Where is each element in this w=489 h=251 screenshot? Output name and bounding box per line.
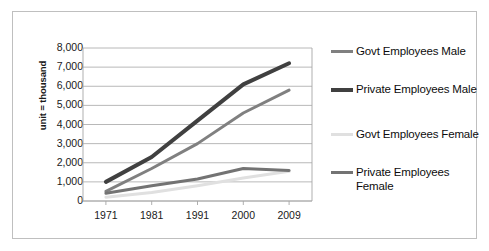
chart-frame: unit = thousand 8,0007,0006,0005,0004,00… bbox=[12, 11, 477, 239]
legend-color-swatch bbox=[331, 133, 353, 136]
x-axis-tick-label: 2009 bbox=[266, 209, 312, 221]
x-axis-tick-label: 2000 bbox=[220, 209, 266, 221]
legend-color-swatch bbox=[331, 88, 353, 92]
legend-color-swatch bbox=[331, 171, 353, 174]
legend-label: Govt Employees Female bbox=[356, 127, 479, 141]
legend-entry[interactable]: Govt Employees Female bbox=[331, 127, 479, 141]
legend-entry[interactable]: Govt Employees Male bbox=[331, 44, 466, 58]
legend-label: Private Employees Male bbox=[356, 82, 477, 96]
legend-entry[interactable]: Private Employees Male bbox=[331, 82, 477, 96]
legend-label: Govt Employees Male bbox=[356, 44, 466, 58]
x-axis-tick-label: 1991 bbox=[175, 209, 221, 221]
legend-entry[interactable]: Private Employees Female bbox=[331, 165, 479, 193]
legend-color-swatch bbox=[331, 50, 353, 53]
x-axis-tick-label: 1981 bbox=[129, 209, 175, 221]
legend-label: Private Employees Female bbox=[356, 165, 479, 193]
x-axis-tick-label: 1971 bbox=[83, 209, 129, 221]
